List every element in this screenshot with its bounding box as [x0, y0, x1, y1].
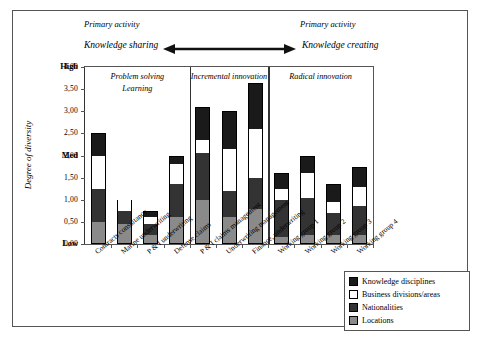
y-axis-tick-label: 2,50	[44, 128, 78, 137]
bar-segment	[195, 140, 210, 153]
bar-segment	[352, 167, 367, 187]
legend-item: Knowledge disciplines	[349, 275, 465, 288]
bar-segment	[326, 184, 341, 202]
primary-activity-left-label: Primary activity	[84, 19, 139, 29]
y-axis-tick-mark	[81, 67, 85, 68]
bar-segment	[274, 173, 289, 188]
bar-segment	[169, 156, 184, 165]
bar-segment	[91, 133, 106, 155]
plot-area: Problem solvingLearningIncremental innov…	[84, 66, 374, 245]
bar-segment	[222, 149, 237, 191]
y-axis-tick-mark	[81, 244, 85, 245]
legend-swatch-icon	[349, 290, 358, 299]
legend-item: Business divisions/areas	[349, 288, 465, 301]
bar-segment	[195, 107, 210, 140]
y-axis-tick-mark	[81, 178, 85, 179]
y-axis-qualitative-label: High	[44, 62, 78, 71]
bar-segment	[352, 187, 367, 207]
knowledge-creating-label: Knowledge creating	[302, 40, 378, 50]
bar-segment	[169, 184, 184, 217]
y-axis-tick-label: 1,50	[44, 172, 78, 181]
y-axis-title: Degree of diversity	[23, 105, 33, 205]
chart-legend: Knowledge disciplinesBusiness divisions/…	[344, 271, 470, 331]
legend-item: Locations	[349, 314, 465, 327]
knowledge-sharing-label: Knowledge sharing	[84, 40, 158, 50]
y-axis-tick-mark	[81, 222, 85, 223]
y-axis-tick-mark	[81, 111, 85, 112]
bar-segment	[274, 189, 289, 200]
bar-segment	[300, 173, 315, 197]
y-axis-tick-label: 3,50	[44, 84, 78, 93]
y-axis-tick-label: 3,00	[44, 106, 78, 115]
legend-label: Nationalities	[362, 303, 403, 312]
primary-activity-right-label: Primary activity	[300, 19, 355, 29]
legend-swatch-icon	[349, 303, 358, 312]
region-title: Radical innovation	[268, 72, 373, 81]
bar-segment	[195, 153, 210, 199]
figure-container: Primary activity Primary activity Knowle…	[0, 0, 482, 349]
y-axis-qualitative-label: Low	[44, 239, 78, 248]
y-axis-tick-mark	[81, 200, 85, 201]
bar-segment	[91, 156, 106, 189]
legend-swatch-icon	[349, 277, 358, 286]
y-axis-tick-mark	[81, 156, 85, 157]
bar-segment	[169, 164, 184, 184]
bar-segment	[248, 83, 263, 129]
legend-swatch-icon	[349, 316, 358, 325]
bar-segment	[222, 191, 237, 218]
bar-segment	[326, 202, 341, 213]
bar-segment	[300, 156, 315, 174]
bar-segment	[117, 200, 132, 211]
bar-1	[91, 133, 106, 244]
y-axis-tick-mark	[81, 133, 85, 134]
legend-label: Locations	[362, 316, 394, 325]
y-axis-tick-label: 0,50	[44, 216, 78, 225]
legend-item: Nationalities	[349, 301, 465, 314]
double-headed-arrow-icon	[163, 41, 296, 53]
region-subtitle: Learning	[85, 84, 190, 93]
bar-segment	[222, 111, 237, 149]
bar-segment	[248, 129, 263, 178]
y-axis-qualitative-label: Med	[44, 150, 78, 159]
region-title: Incremental innovation	[190, 72, 269, 81]
region-title: Problem solving	[85, 72, 190, 81]
legend-label: Knowledge disciplines	[362, 277, 435, 286]
legend-label: Business divisions/areas	[362, 290, 440, 299]
y-axis-tick-label: 1,00	[44, 194, 78, 203]
bar-segment	[91, 189, 106, 222]
